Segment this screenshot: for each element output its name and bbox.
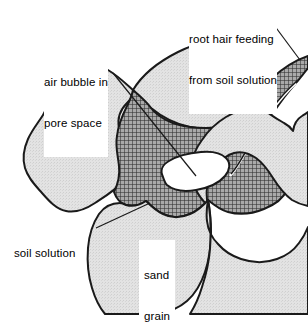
label-sand-grain-line1: sand xyxy=(144,269,170,283)
label-soil-solution: soil solution xyxy=(14,220,75,288)
label-air-bubble-in-pore-space: air bubble in pore space xyxy=(44,49,108,157)
label-root-hair-line2: from soil solution xyxy=(189,74,277,88)
label-sand-grain-line2: grain xyxy=(144,310,170,324)
leader-line-root-hair xyxy=(274,25,300,60)
label-sand-grain: sand grain xyxy=(139,240,175,326)
label-root-hair-feeding: root hair feeding from soil solution xyxy=(189,6,277,114)
label-air-bubble-line2: pore space xyxy=(44,117,108,131)
label-air-bubble-line1: air bubble in xyxy=(44,76,108,90)
label-soil-solution-line1: soil solution xyxy=(14,247,75,261)
label-root-hair-line1: root hair feeding xyxy=(189,33,277,47)
